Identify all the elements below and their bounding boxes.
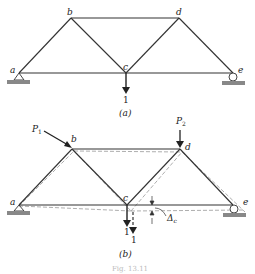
- force-p1-arrow: [44, 131, 72, 148]
- deflection-dimension: [150, 196, 166, 224]
- truss-diagram: a b c d e 1 (a): [0, 0, 255, 274]
- node-a-label: a: [10, 65, 15, 75]
- node-d-label: d: [176, 7, 182, 17]
- force-p2-arrow: [176, 130, 184, 148]
- load-label-b-1: 1: [124, 227, 130, 237]
- caption-a: (a): [119, 108, 132, 118]
- load-arrow-b: [123, 205, 131, 227]
- deflection-label: cΔc: [166, 213, 178, 224]
- force-p1-label: P1: [31, 124, 42, 135]
- node-b-label: b: [67, 7, 73, 17]
- node-a-label-b: a: [10, 197, 15, 207]
- load-label-b-2: 1: [131, 235, 137, 245]
- figure-caption: Fig. 13.11: [112, 265, 148, 273]
- caption-b: (b): [119, 249, 132, 259]
- load-arrow-b-deflected: [129, 212, 137, 234]
- force-p2-label: P2: [175, 116, 186, 127]
- node-c-label-b: c: [123, 193, 128, 203]
- node-c-label: c: [123, 62, 128, 72]
- load-arrow-a: [122, 73, 130, 94]
- node-e-label-b: e: [243, 197, 248, 207]
- load-label-a: 1: [123, 95, 129, 105]
- node-e-label: e: [238, 65, 243, 75]
- node-d-label-b: d: [185, 142, 191, 152]
- node-b-label-b: b: [71, 134, 77, 144]
